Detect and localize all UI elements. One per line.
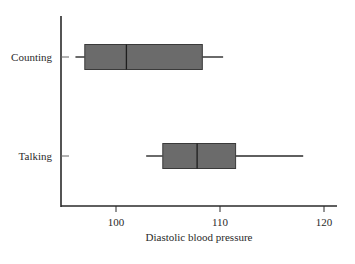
y-tick-label-counting: Counting [11,51,52,63]
chart-canvas: 100110120CountingTalking Diastolic blood… [0,0,355,264]
x-tick-label: 110 [212,216,229,228]
box-talking [146,144,303,169]
boxes [75,45,303,169]
iqr-box [85,45,203,70]
x-tick-label: 100 [108,216,125,228]
boxplot-chart: 100110120CountingTalking Diastolic blood… [0,0,355,264]
y-tick-label-talking: Talking [19,150,53,162]
x-tick-label: 120 [316,216,333,228]
iqr-box [163,144,236,169]
x-axis-label: Diastolic blood pressure [146,231,253,243]
box-counting [75,45,223,70]
